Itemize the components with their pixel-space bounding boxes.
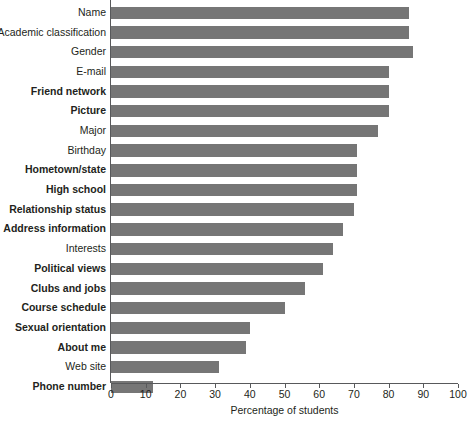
bar-chart: NameAcademic classificationGenderE-mailF… [0,0,468,429]
category-label: E-mail [0,64,111,78]
bar [111,144,357,156]
bar [111,223,343,235]
category-label: Hometown/state [0,162,111,176]
bar-row: Major [111,122,458,142]
bar-row: Clubs and jobs [111,279,458,299]
x-tick-label: 20 [175,388,187,401]
x-tick-label: 30 [209,388,221,401]
bar-row: E-mail [111,63,458,83]
category-label: Birthday [0,143,111,157]
category-label: Address information [0,221,111,235]
bar-row: Interests [111,240,458,260]
bar-row: Academic classification [111,23,458,43]
bar-row: About me [111,338,458,358]
category-label: Interests [0,241,111,255]
bar [111,361,219,373]
category-label: Name [0,5,111,19]
bar-row: High school [111,181,458,201]
category-label: Gender [0,44,111,58]
bar-row: Address information [111,220,458,240]
bar-row: Sexual orientation [111,318,458,338]
category-label: Web site [0,359,111,373]
category-label: Academic classification [0,25,111,39]
x-tick-label: 40 [244,388,256,401]
category-label: Relationship status [0,202,111,216]
bar [111,7,409,19]
category-label: Sexual orientation [0,320,111,334]
bar [111,66,389,78]
bar [111,164,357,176]
category-label: Clubs and jobs [0,281,111,295]
x-tick-label: 80 [383,388,395,401]
bar-row: Picture [111,102,458,122]
category-label: Major [0,123,111,137]
bar [111,263,323,275]
category-label: Political views [0,261,111,275]
bar-row: Web site [111,358,458,378]
bar [111,85,389,97]
x-tick-label: 90 [417,388,429,401]
bar [111,184,357,196]
bar [111,341,246,353]
category-label: High school [0,182,111,196]
category-label: Picture [0,103,111,117]
bar [111,125,378,137]
bar-row: Friend network [111,82,458,102]
x-tick-label: 50 [279,388,291,401]
x-tick-label: 100 [449,388,467,401]
x-tick-label: 10 [140,388,152,401]
bar-row: Political views [111,259,458,279]
bar-row: Hometown/state [111,161,458,181]
bar-row: Gender [111,43,458,63]
bar-rows: NameAcademic classificationGenderE-mailF… [111,0,458,383]
bar [111,322,250,334]
bar [111,26,409,38]
bar [111,302,285,314]
bar-row: Birthday [111,141,458,161]
x-tick-label: 60 [313,388,325,401]
x-tick-label: 70 [348,388,360,401]
category-label: Course schedule [0,300,111,314]
bar [111,243,333,255]
bar [111,105,389,117]
category-label: Phone number [0,379,111,393]
category-label: About me [0,340,111,354]
bar [111,203,354,215]
bar [111,282,305,294]
x-tick-label: 0 [108,388,114,401]
bar [111,46,413,58]
x-axis-title: Percentage of students [111,404,458,417]
bar-row: Relationship status [111,200,458,220]
bar-row: Course schedule [111,299,458,319]
category-label: Friend network [0,84,111,98]
plot-area: NameAcademic classificationGenderE-mailF… [111,0,458,383]
bar-row: Name [111,4,458,24]
y-axis-line [110,0,111,383]
